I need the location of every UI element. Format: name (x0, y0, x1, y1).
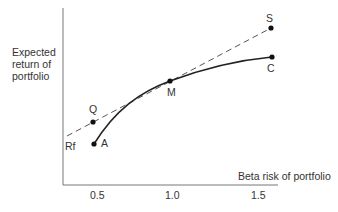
point-Rf-label: Rf (65, 140, 76, 152)
point-A-marker (91, 141, 96, 146)
y-axis-label-line3: portfolio (12, 70, 50, 82)
y-axis-label-line2: return of (12, 58, 51, 70)
chart: Expected return of portfolio Beta risk o… (0, 0, 338, 212)
point-Q-marker (90, 119, 95, 124)
point-Q-label: Q (89, 103, 97, 115)
point-A-label: A (101, 137, 108, 149)
efficient-frontier-curve (94, 57, 272, 144)
point-M-marker (167, 78, 172, 83)
x-tick-1.5: 1.5 (251, 189, 266, 201)
y-axis-label-line1: Expected (12, 46, 56, 58)
point-M-label: M (167, 86, 176, 98)
point-S-marker (268, 25, 273, 30)
x-tick-1.0: 1.0 (165, 189, 180, 201)
point-C-label: C (267, 62, 275, 74)
x-tick-0.5: 0.5 (90, 189, 105, 201)
point-C-marker (269, 54, 274, 59)
point-S-label: S (266, 12, 273, 24)
x-axis-label: Beta risk of portfolio (238, 170, 331, 182)
